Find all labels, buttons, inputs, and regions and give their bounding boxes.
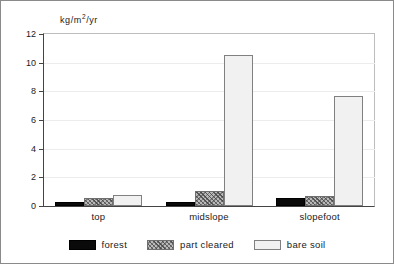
y-tick-label: 4 [31, 144, 36, 154]
bar-forest-top [55, 202, 84, 206]
y-axis-unit-pre: kg/m [60, 15, 82, 25]
gridline [44, 149, 375, 150]
y-tick-mark [39, 206, 43, 207]
legend-label: bare soil [287, 239, 326, 250]
gridline [44, 177, 375, 178]
y-tick-mark [39, 34, 43, 35]
y-axis-unit-label: kg/m2/yr [60, 15, 98, 25]
legend-item-bare-soil[interactable]: bare soil [254, 239, 326, 250]
bar-part-cleared-slopefoot [305, 196, 334, 206]
x-tick-label-top: top [91, 211, 105, 222]
chart-legend: forestpart clearedbare soil [1, 239, 393, 250]
plot-area: 024681012 [43, 33, 375, 207]
y-tick-label: 2 [31, 172, 36, 182]
legend-item-forest[interactable]: forest [69, 239, 128, 250]
bar-chart-figure: kg/m2/yr 024681012 topmidslopeslopefoot … [0, 0, 394, 264]
y-tick-label: 12 [26, 29, 36, 39]
legend-label: forest [102, 239, 128, 250]
bar-part-cleared-midslope [195, 191, 224, 206]
y-tick-mark [39, 120, 43, 121]
y-axis-unit-post: /yr [86, 15, 98, 25]
legend-item-part-cleared[interactable]: part cleared [147, 239, 234, 250]
y-tick-label: 10 [26, 58, 36, 68]
bar-bare-soil-slopefoot [334, 96, 363, 206]
y-tick-label: 8 [31, 86, 36, 96]
y-tick-mark [39, 177, 43, 178]
y-tick-label: 0 [31, 201, 36, 211]
y-tick-mark [39, 149, 43, 150]
legend-swatch-part-cleared-icon [147, 240, 174, 250]
y-tick-label: 6 [31, 115, 36, 125]
y-tick-mark [39, 91, 43, 92]
legend-swatch-forest-icon [69, 240, 96, 250]
x-tick-label-midslope: midslope [189, 211, 229, 222]
bar-bare-soil-top [113, 195, 142, 206]
gridline [44, 91, 375, 92]
x-tick-label-slopefoot: slopefoot [299, 211, 339, 222]
bar-bare-soil-midslope [224, 55, 253, 206]
bar-forest-slopefoot [276, 198, 305, 206]
y-tick-mark [39, 63, 43, 64]
bar-part-cleared-top [84, 198, 113, 206]
bar-forest-midslope [166, 202, 195, 206]
gridline [44, 63, 375, 64]
gridline [44, 120, 375, 121]
legend-label: part cleared [180, 239, 234, 250]
legend-swatch-bare-soil-icon [254, 240, 281, 250]
